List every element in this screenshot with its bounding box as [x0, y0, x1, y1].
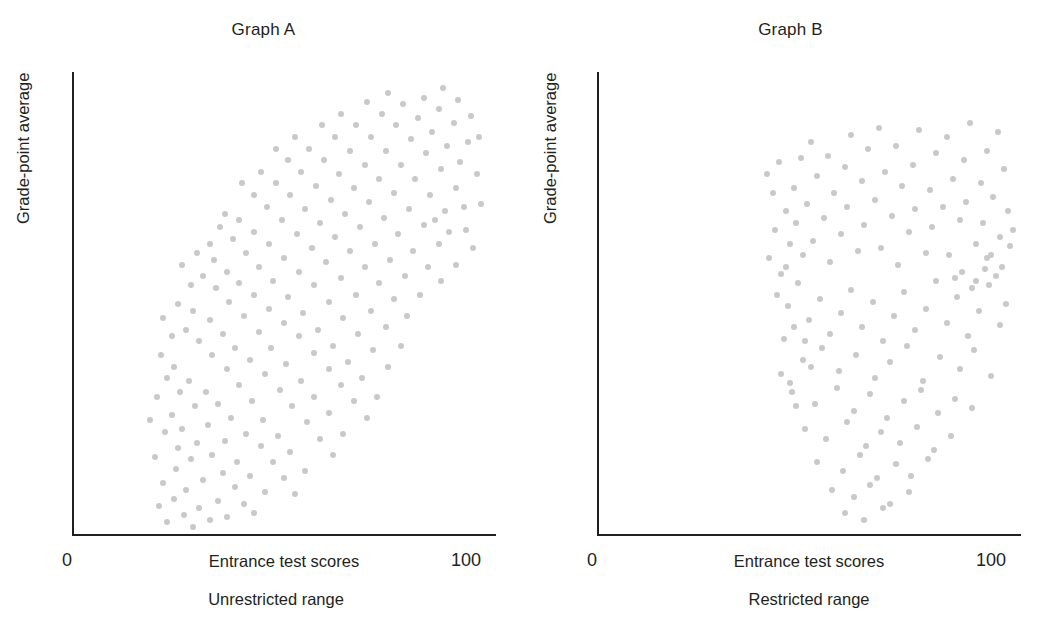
scatter-dot	[952, 275, 958, 281]
scatter-dot	[923, 306, 929, 312]
scatter-dot	[897, 440, 903, 446]
scatter-dot	[270, 459, 276, 465]
scatter-dot	[446, 229, 452, 235]
scatter-dot	[294, 231, 300, 237]
scatter-dot	[844, 419, 850, 425]
scatter-dot	[867, 482, 873, 488]
scatter-dot	[355, 331, 361, 337]
scatter-dot	[421, 222, 427, 228]
scatter-dot	[474, 171, 480, 177]
scatter-dot	[196, 505, 202, 511]
scatter-dot	[323, 259, 329, 265]
scatter-dot	[781, 336, 787, 342]
scatter-dot	[791, 185, 797, 191]
scatter-dot	[186, 378, 192, 384]
scatter-dot	[147, 417, 153, 423]
panel-a-plot-area: Grade-point average 0 100 Entrance test …	[72, 72, 496, 536]
scatter-dot	[181, 512, 187, 518]
scatter-dot	[880, 338, 886, 344]
scatter-dot	[834, 385, 840, 391]
scatter-dot	[861, 517, 867, 523]
scatter-dot	[827, 331, 833, 337]
scatter-dot	[410, 248, 416, 254]
scatter-dot	[391, 296, 397, 302]
scatter-dot	[804, 201, 810, 207]
scatter-dot	[183, 327, 189, 333]
scatter-dot	[451, 120, 457, 126]
scatter-dot	[814, 459, 820, 465]
scatter-dot	[984, 148, 990, 154]
scatter-dot	[867, 391, 873, 397]
scatter-dot	[986, 282, 992, 288]
scatter-dot	[383, 148, 389, 154]
scatter-dot	[802, 426, 808, 432]
scatter-dot	[395, 231, 401, 237]
scatter-dot	[787, 380, 793, 386]
scatter-dot	[209, 452, 215, 458]
scatter-dot	[285, 157, 291, 163]
scatter-dot	[298, 169, 304, 175]
scatter-dot	[228, 415, 234, 421]
scatter-dot	[385, 90, 391, 96]
scatter-dot	[203, 389, 209, 395]
scatter-dot	[793, 220, 799, 226]
panel-b-title: Graph B	[527, 20, 1054, 40]
scatter-dot	[326, 366, 332, 372]
scatter-dot	[438, 278, 444, 284]
scatter-dot	[368, 308, 374, 314]
scatter-dot	[230, 236, 236, 242]
scatter-dot	[882, 169, 888, 175]
scatter-dot	[870, 299, 876, 305]
scatter-dot	[478, 201, 484, 207]
scatter-dot	[969, 405, 975, 411]
scatter-dot	[402, 273, 408, 279]
scatter-dot	[213, 285, 219, 291]
scatter-dot	[183, 487, 189, 493]
scatter-dot	[196, 338, 202, 344]
scatter-dot	[300, 310, 306, 316]
scatter-dot	[364, 415, 370, 421]
scatter-dot	[393, 122, 399, 128]
scatter-dot	[876, 125, 882, 131]
scatter-dot	[982, 266, 988, 272]
scatter-dot	[774, 292, 780, 298]
scatter-dot	[330, 343, 336, 349]
scatter-dot	[971, 347, 977, 353]
scatter-dot	[243, 250, 249, 256]
scatter-dot	[164, 519, 170, 525]
scatter-dot	[273, 180, 279, 186]
scatter-dot	[887, 359, 893, 365]
scatter-dot	[851, 408, 857, 414]
scatter-dot	[353, 122, 359, 128]
scatter-dot	[313, 183, 319, 189]
scatter-dot	[173, 466, 179, 472]
scatter-dot	[205, 422, 211, 428]
scatter-dot	[1005, 208, 1011, 214]
scatter-dot	[436, 241, 442, 247]
scatter-dot	[770, 190, 776, 196]
scatter-dot	[957, 366, 963, 372]
scatter-dot	[211, 257, 217, 263]
scatter-dot	[332, 234, 338, 240]
scatter-dot	[372, 241, 378, 247]
scatter-dot	[160, 480, 166, 486]
scatter-dot	[887, 501, 893, 507]
scatter-dot	[470, 245, 476, 251]
scatter-dot	[270, 278, 276, 284]
scatter-dot	[311, 394, 317, 400]
scatter-dot	[957, 217, 963, 223]
scatter-dot	[969, 285, 975, 291]
panel-a-scatter-points	[72, 72, 496, 536]
scatter-dot	[855, 248, 861, 254]
scatter-dot	[190, 524, 196, 530]
panel-b-x-axis-label: Entrance test scores	[597, 552, 1021, 571]
scatter-dot	[988, 373, 994, 379]
scatter-dot	[425, 264, 431, 270]
scatter-dot	[351, 185, 357, 191]
scatter-dot	[791, 324, 797, 330]
scatter-dot	[164, 375, 170, 381]
scatter-dot	[880, 505, 886, 511]
scatter-dot	[169, 412, 175, 418]
scatter-dot	[787, 241, 793, 247]
scatter-dot	[220, 470, 226, 476]
